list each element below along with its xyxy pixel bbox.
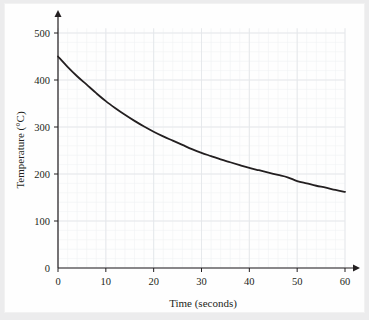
x-tick-label: 30 [196, 276, 207, 287]
x-axis-tick-labels: 0102030405060 [55, 276, 350, 287]
x-tick-label: 20 [148, 276, 159, 287]
grid-major [58, 28, 345, 268]
y-tick-label: 400 [34, 75, 50, 86]
y-tick-label: 500 [34, 28, 50, 39]
x-tick-label: 60 [340, 276, 351, 287]
x-tick-label: 40 [244, 276, 255, 287]
y-axis-tick-labels: 0100200300400500 [34, 28, 50, 274]
figure-root: 0102030405060 0100200300400500 Time (sec… [0, 0, 369, 320]
temperature-time-chart: 0102030405060 0100200300400500 Time (sec… [0, 0, 369, 320]
y-axis-title: Temperature (°C) [14, 111, 27, 189]
x-axis-title: Time (seconds) [169, 297, 237, 310]
y-tick-label: 300 [34, 122, 50, 133]
x-tick-label: 10 [101, 276, 112, 287]
x-tick-label: 50 [292, 276, 303, 287]
y-tick-label: 200 [34, 169, 50, 180]
y-tick-label: 100 [34, 216, 50, 227]
y-tick-label: 0 [45, 263, 50, 274]
x-tick-label: 0 [55, 276, 60, 287]
